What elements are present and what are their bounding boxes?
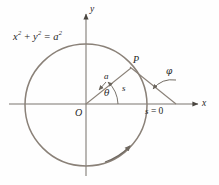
x-axis-label: x bbox=[202, 99, 206, 109]
equation-plus: + bbox=[21, 31, 33, 42]
equation-exp-3: 2 bbox=[59, 29, 62, 36]
theta-label: θ bbox=[104, 89, 109, 98]
arc-length-label: s bbox=[122, 84, 126, 93]
circle-direction-arrow bbox=[105, 146, 130, 162]
diagram-vector-layer bbox=[0, 0, 219, 185]
arc-start-label: s = 0 bbox=[145, 107, 163, 117]
phi-label: φ bbox=[166, 67, 172, 76]
origin-label: O bbox=[75, 108, 82, 118]
circle-equation-label: x2 + y2 = a2 bbox=[13, 30, 62, 42]
point-p-label: P bbox=[133, 55, 139, 65]
figure-canvas: x2 + y2 = a2 y x O P a s θ φ s = 0 bbox=[0, 0, 219, 185]
y-axis-label: y bbox=[90, 5, 94, 15]
radius-label: a bbox=[104, 72, 109, 81]
equation-equals: = bbox=[41, 31, 53, 42]
arc-start-eq: = 0 bbox=[149, 106, 164, 116]
